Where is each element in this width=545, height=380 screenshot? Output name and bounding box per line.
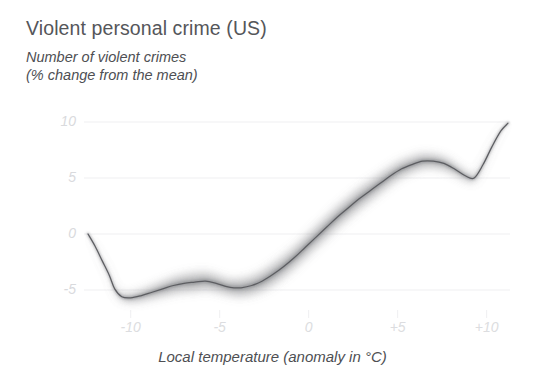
x-tick-label: 0 xyxy=(284,319,334,335)
data-line-halo xyxy=(88,123,508,298)
x-tick-label: -5 xyxy=(195,319,245,335)
y-tick-label: 5 xyxy=(36,169,76,185)
x-tick-marks xyxy=(131,310,487,318)
y-tick-label: -5 xyxy=(36,281,76,297)
x-axis-title: Local temperature (anomaly in °C) xyxy=(0,348,545,365)
uncertainty-band-layer xyxy=(88,123,508,300)
data-line xyxy=(88,123,508,298)
uncertainty-band-layer xyxy=(88,123,508,299)
y-tick-label: 0 xyxy=(36,225,76,241)
x-tick-label: +5 xyxy=(373,319,423,335)
x-tick-label: +10 xyxy=(462,319,512,335)
uncertainty-band-layer xyxy=(88,123,508,302)
y-tick-label: 10 xyxy=(36,113,76,129)
x-tick-label: -10 xyxy=(106,319,156,335)
chart-page: Violent personal crime (US) Number of vi… xyxy=(0,0,545,380)
uncertainty-band-layer xyxy=(88,123,508,301)
uncertainty-band xyxy=(88,123,508,302)
data-line-core xyxy=(88,123,508,298)
